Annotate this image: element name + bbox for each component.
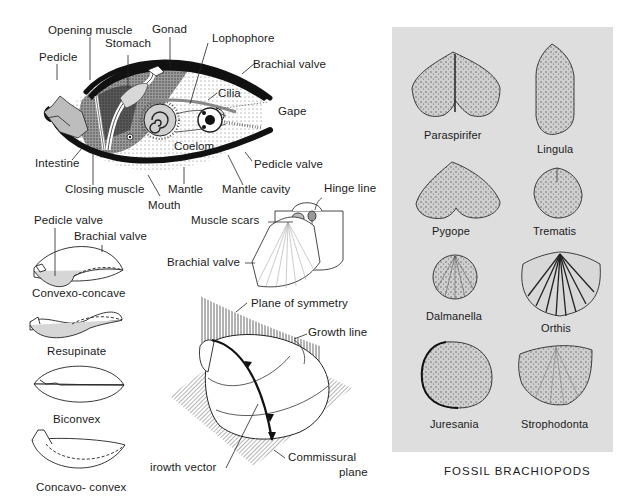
label-gonad: Gonad <box>152 23 187 36</box>
label-coelom: Coelom <box>174 140 214 153</box>
label-brachial-valve: Brachial valve <box>253 58 326 71</box>
label-closing-muscle: Closing muscle <box>65 183 144 196</box>
label-pedicle: Pedicle <box>39 51 77 64</box>
label-profile-biconvex: Biconvex <box>53 413 100 426</box>
label-pedicle-valve: Pedicle valve <box>254 158 323 171</box>
label-growth-line: Growth line <box>308 326 367 339</box>
label-hinge-line: Hinge line <box>324 182 376 195</box>
label-profile-resupinate: Resupinate <box>47 345 106 358</box>
label-profile-pedicle-valve: Pedicle valve <box>34 214 103 227</box>
label-juresania: Juresania <box>430 418 479 431</box>
label-profile-brachial-valve: Brachial valve <box>74 230 147 243</box>
label-mouth: Mouth <box>148 199 180 212</box>
label-lophophore: Lophophore <box>212 32 274 45</box>
label-interior-brachial-valve: Brachial valve <box>167 256 240 269</box>
label-profile-convexo-concave: Convexo-concave <box>32 287 126 300</box>
label-intestine: Intestine <box>35 157 79 170</box>
label-strophodonta: Strophodonta <box>521 418 588 431</box>
label-trematis: Trematis <box>533 225 576 238</box>
valve-interior <box>245 198 343 288</box>
label-plane-of-symmetry: Plane of symmetry <box>251 297 348 310</box>
label-orthis: Orthis <box>541 322 571 335</box>
label-profile-concavo-convex: Concavo- convex <box>36 481 126 494</box>
label-paraspirifer: Paraspirifer <box>424 129 481 142</box>
label-commissural-plane-2: plane <box>339 466 368 479</box>
label-opening-muscle: Opening muscle <box>48 24 133 37</box>
label-mantle-cavity: Mantle cavity <box>222 183 290 196</box>
label-commissural-plane-1: Commissural <box>288 451 356 464</box>
symmetry-diagram <box>170 296 352 468</box>
anatomy-cross-section <box>44 37 270 196</box>
label-growth-vector: irowth vector <box>150 461 217 474</box>
fossil-panel-caption: FOSSIL BRACHIOPODS <box>444 465 591 477</box>
label-cilia: Cilia <box>218 87 241 100</box>
label-lingula: Lingula <box>537 143 573 156</box>
label-pygope: Pygope <box>432 225 470 238</box>
label-dalmanella: Dalmanella <box>426 310 482 323</box>
label-mantle: Mantle <box>168 183 203 196</box>
label-muscle-scars: Muscle scars <box>191 214 259 227</box>
label-gape: Gape <box>278 105 307 118</box>
label-stomach: Stomach <box>105 37 151 50</box>
